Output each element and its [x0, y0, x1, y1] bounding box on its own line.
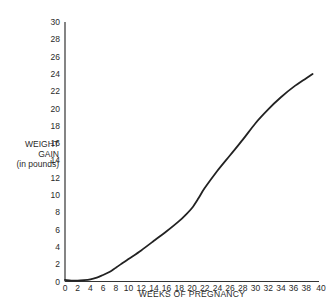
x-tick-label: 34 [276, 283, 286, 293]
y-tick-label: 12 [51, 173, 61, 183]
x-tick-label: 10 [124, 283, 134, 293]
y-axis-label-line-2: GAIN [38, 149, 59, 159]
y-tick-label: 6 [55, 225, 60, 235]
x-tick-label: 0 [63, 283, 68, 293]
y-tick-label: 8 [55, 207, 60, 217]
x-tick-label: 2 [75, 283, 80, 293]
y-tick-label: 2 [55, 259, 60, 269]
x-tick-label: 36 [289, 283, 299, 293]
y-tick-label: 4 [55, 242, 60, 252]
x-tick-label: 32 [263, 283, 273, 293]
y-tick-label: 30 [51, 17, 61, 27]
y-tick-label: 0 [55, 277, 60, 287]
y-tick-label: 24 [51, 69, 61, 79]
y-tick-label: 28 [51, 34, 61, 44]
x-tick-label: 40 [316, 283, 326, 293]
y-axis-label-line-3: (in pounds) [16, 159, 59, 169]
x-axis-label: WEEKS OF PREGNANCY [139, 289, 246, 299]
weight-gain-curve [65, 74, 313, 281]
x-tick-label: 30 [251, 283, 261, 293]
y-tick-label: 10 [51, 190, 61, 200]
x-tick-label: 38 [302, 283, 312, 293]
y-axis-label-line-1: WEIGHT [25, 139, 59, 149]
y-tick-label: 18 [51, 121, 61, 131]
y-tick-label: 22 [51, 86, 61, 96]
x-tick-label: 8 [113, 283, 118, 293]
y-tick-label: 26 [51, 52, 61, 62]
x-tick-label: 4 [88, 283, 93, 293]
y-tick-label: 20 [51, 104, 61, 114]
x-tick-label: 6 [101, 283, 106, 293]
